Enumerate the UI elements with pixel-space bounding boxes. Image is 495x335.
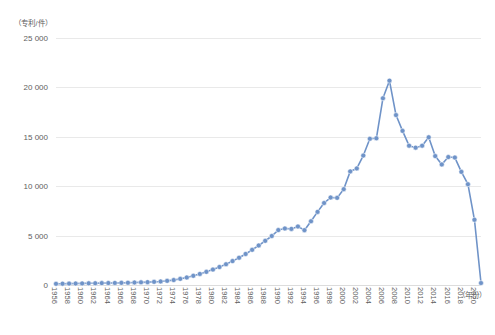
data-point-marker[interactable] [420,143,425,148]
x-axis-tick-label: 2014 [429,287,438,304]
data-point-marker[interactable] [354,166,359,171]
data-point-marker[interactable] [289,226,294,231]
x-axis-tick-label: 2012 [416,287,425,304]
data-point-marker[interactable] [459,169,464,174]
data-point-marker[interactable] [132,280,137,285]
x-axis-tick-label: 2008 [390,287,399,304]
data-point-marker[interactable] [184,275,189,280]
data-point-marker[interactable] [86,281,91,286]
data-point-marker[interactable] [433,154,438,159]
data-point-marker[interactable] [60,281,65,286]
data-point-marker[interactable] [73,281,78,286]
data-point-marker[interactable] [335,195,340,200]
data-point-marker[interactable] [400,128,405,133]
x-axis-tick-label: 1976 [181,287,190,304]
data-point-marker[interactable] [361,153,366,158]
x-axis-tick-label: 1970 [142,287,151,304]
x-axis-tick-label: 1962 [89,287,98,304]
data-point-marker[interactable] [367,136,372,141]
y-axis-unit-label: （专利/件） [14,17,52,28]
x-axis-tick-label: 1974 [168,287,177,304]
data-point-marker[interactable] [243,251,248,256]
data-point-marker[interactable] [295,224,300,229]
data-point-marker[interactable] [309,219,314,224]
gridline-0 [56,285,481,286]
data-point-marker[interactable] [446,155,451,160]
y-axis-tick-label: 25 000 [0,34,48,43]
data-point-marker[interactable] [479,281,484,286]
data-point-marker[interactable] [426,135,431,140]
x-axis-tick-label: 2006 [377,287,386,304]
data-point-marker[interactable] [282,226,287,231]
data-point-marker[interactable] [413,145,418,150]
data-point-marker[interactable] [165,278,170,283]
data-point-marker[interactable] [217,265,222,270]
x-axis-tick-label: 1958 [63,287,72,304]
data-point-marker[interactable] [99,281,104,286]
data-point-marker[interactable] [472,217,477,222]
data-point-marker[interactable] [394,113,399,118]
data-point-marker[interactable] [380,96,385,101]
x-axis-tick-label: 1960 [76,287,85,304]
data-point-marker[interactable] [197,271,202,276]
data-point-marker[interactable] [106,281,111,286]
x-axis-tick-label: 2016 [443,287,452,304]
x-axis-tick-label: 1984 [233,287,242,304]
x-axis-tick-label: 2000 [338,287,347,304]
data-point-marker[interactable] [119,280,124,285]
data-point-marker[interactable] [210,267,215,272]
data-point-marker[interactable] [237,255,242,260]
x-axis-tick-label: 1972 [155,287,164,304]
data-point-marker[interactable] [139,280,144,285]
data-point-marker[interactable] [204,269,209,274]
data-point-marker[interactable] [112,280,117,285]
data-point-marker[interactable] [158,279,163,284]
x-axis-tick-label: 2018 [456,287,465,304]
data-point-marker[interactable] [328,195,333,200]
x-axis-tick-label: 1988 [259,287,268,304]
data-point-marker[interactable] [269,234,274,239]
data-point-marker[interactable] [315,209,320,214]
data-point-marker[interactable] [125,280,130,285]
data-point-marker[interactable] [341,187,346,192]
data-point-marker[interactable] [387,78,392,83]
data-point-marker[interactable] [224,262,229,267]
data-point-marker[interactable] [256,243,261,248]
x-axis-tick-label: 1990 [273,287,282,304]
data-point-marker[interactable] [230,259,235,264]
data-point-marker[interactable] [250,247,255,252]
data-point-marker[interactable] [80,281,85,286]
x-axis-tick-label: 2002 [351,287,360,304]
data-point-marker[interactable] [374,136,379,141]
x-axis-tick-label: 1986 [246,287,255,304]
data-point-marker[interactable] [439,162,444,167]
y-axis-tick-label: 5 000 [0,231,48,240]
x-axis-tick-label: 1956 [50,287,59,304]
plot-area [56,38,481,285]
x-axis-tick-label: 2004 [364,287,373,304]
data-point-marker[interactable] [322,201,327,206]
data-point-marker[interactable] [465,182,470,187]
y-axis-tick-label: 10 000 [0,182,48,191]
y-axis-tick-label: 20 000 [0,83,48,92]
x-axis-tick-label: 1982 [220,287,229,304]
data-point-marker[interactable] [276,228,281,233]
data-point-marker[interactable] [54,281,59,286]
data-point-marker[interactable] [191,273,196,278]
x-axis-tick-label: 2020 [469,287,478,304]
data-point-marker[interactable] [348,169,353,174]
x-axis-tick-label: 1998 [325,287,334,304]
series-line [56,81,481,284]
data-point-marker[interactable] [263,238,268,243]
data-point-marker[interactable] [145,280,150,285]
y-axis-tick-label: 15 000 [0,132,48,141]
x-axis-tick-labels: 1956195819601962196419661968197019721974… [56,287,481,333]
data-point-marker[interactable] [452,155,457,160]
data-point-marker[interactable] [67,281,72,286]
data-point-marker[interactable] [93,281,98,286]
data-point-marker[interactable] [171,278,176,283]
data-point-marker[interactable] [407,143,412,148]
data-point-marker[interactable] [178,276,183,281]
data-point-marker[interactable] [302,228,307,233]
data-point-marker[interactable] [152,279,157,284]
